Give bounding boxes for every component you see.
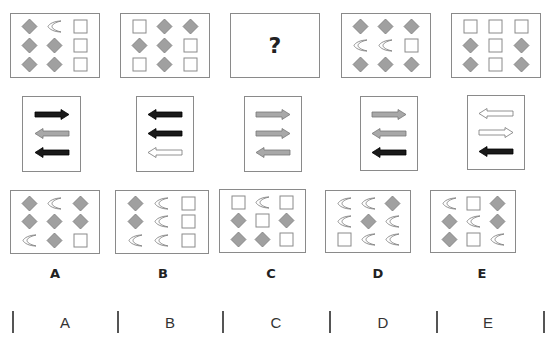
crescent-icon: [149, 194, 176, 213]
square-icon: [226, 193, 250, 212]
diamond-icon: [42, 36, 67, 55]
square-icon: [275, 230, 299, 249]
shape-grid: [11, 191, 99, 253]
separator: [12, 311, 14, 333]
square-icon: [509, 17, 534, 36]
arrow-panel-b: [136, 96, 194, 172]
diamond-icon: [226, 230, 250, 249]
answer-choice-b[interactable]: B: [155, 314, 185, 331]
square-icon: [127, 55, 152, 74]
diamond-icon: [152, 17, 177, 36]
option-panel-d[interactable]: [325, 190, 411, 253]
shape-grid: [121, 14, 209, 77]
option-label-a: A: [40, 266, 70, 281]
answer-choice-d[interactable]: D: [368, 314, 398, 331]
arrow-left-icon: [255, 144, 291, 162]
diamond-icon: [356, 212, 380, 230]
square-icon: [250, 212, 274, 231]
shape-grid: [431, 191, 515, 252]
square-icon: [178, 36, 203, 55]
diamond-icon: [437, 212, 461, 230]
diamond-icon: [373, 55, 398, 74]
diamond-icon: [17, 36, 42, 55]
option-panel-b[interactable]: [115, 190, 209, 254]
diamond-icon: [17, 55, 42, 74]
arrow-left-icon: [147, 144, 183, 162]
answer-choice-c[interactable]: C: [261, 314, 291, 331]
square-icon: [178, 55, 203, 74]
square-icon: [175, 194, 202, 213]
crescent-icon: [42, 194, 67, 213]
square-icon: [68, 36, 93, 55]
crescent-icon: [373, 36, 398, 55]
diamond-icon: [122, 213, 149, 232]
arrow-left-icon: [147, 106, 183, 124]
square-icon: [461, 194, 485, 212]
square-icon: [127, 17, 152, 36]
diamond-icon: [42, 55, 67, 74]
option-panel-a[interactable]: [10, 190, 100, 254]
diamond-icon: [275, 212, 299, 231]
crescent-icon: [380, 212, 404, 230]
square-icon: [458, 17, 483, 36]
shape-grid: [326, 191, 410, 252]
shape-grid: [116, 191, 208, 253]
top-panel-2: [120, 13, 210, 78]
square-icon: [399, 36, 424, 55]
option-panel-c[interactable]: [219, 189, 306, 253]
diamond-icon: [42, 231, 67, 250]
crescent-icon: [149, 213, 176, 232]
square-icon: [461, 231, 485, 249]
answer-choice-a[interactable]: A: [50, 314, 80, 331]
diamond-icon: [42, 213, 67, 232]
question-panel: ?: [230, 13, 320, 78]
crescent-icon: [356, 231, 380, 249]
square-icon: [68, 55, 93, 74]
arrow-stack: [23, 97, 80, 171]
shape-grid: [220, 190, 305, 252]
crescent-icon: [380, 231, 404, 249]
arrow-stack: [361, 97, 417, 170]
diamond-icon: [399, 55, 424, 74]
top-panel-5: [451, 13, 541, 78]
shape-grid: [11, 14, 99, 77]
square-icon: [175, 231, 202, 250]
answer-choice-e[interactable]: E: [473, 314, 503, 331]
arrow-stack: [245, 97, 301, 171]
diamond-icon: [485, 212, 509, 230]
arrow-right-icon: [371, 106, 407, 124]
separator: [222, 311, 224, 333]
square-icon: [483, 17, 508, 36]
crescent-icon: [17, 231, 42, 250]
diamond-icon: [152, 36, 177, 55]
crescent-icon: [122, 231, 149, 250]
arrow-left-icon: [147, 125, 183, 143]
option-panel-e[interactable]: [430, 190, 516, 253]
square-icon: [68, 231, 93, 250]
shape-grid: [342, 14, 430, 77]
arrow-right-icon: [255, 106, 291, 124]
diamond-icon: [399, 17, 424, 36]
separator: [329, 311, 331, 333]
diamond-icon: [122, 194, 149, 213]
crescent-icon: [149, 231, 176, 250]
crescent-icon: [485, 231, 509, 249]
diamond-icon: [17, 213, 42, 232]
option-label-b: B: [148, 266, 178, 281]
arrow-right-icon: [34, 106, 70, 124]
top-panel-4: [341, 13, 431, 78]
arrow-left-icon: [34, 144, 70, 162]
arrow-left-icon: [478, 105, 514, 123]
diamond-icon: [127, 36, 152, 55]
arrow-stack: [137, 97, 193, 171]
shape-grid: [452, 14, 540, 77]
square-icon: [68, 17, 93, 36]
crescent-icon: [42, 17, 67, 36]
separator: [543, 311, 545, 333]
option-label-e: E: [467, 266, 497, 281]
diamond-icon: [17, 194, 42, 213]
arrow-left-icon: [371, 144, 407, 162]
diamond-icon: [373, 17, 398, 36]
arrow-panel-a: [22, 96, 81, 172]
diamond-icon: [17, 17, 42, 36]
